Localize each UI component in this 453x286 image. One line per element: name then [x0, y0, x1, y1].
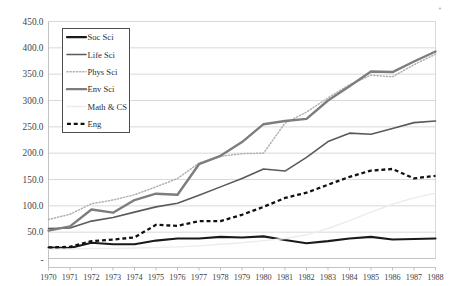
legend-label-phys-sci: Phys Sci: [88, 67, 118, 77]
x-tick-label-1982: 1982: [298, 273, 314, 282]
legend-box: [63, 29, 130, 133]
y-tick-label-400: 400.0: [23, 43, 44, 53]
legend-label-math-cs: Math & CS: [88, 102, 128, 112]
x-tick-label-1981: 1981: [277, 273, 293, 282]
x-tick-label-1973: 1973: [105, 273, 121, 282]
y-axis-tick-labels: -50.0100.0150.0200.0250.0300.0350.0400.0…: [23, 17, 44, 265]
legend-label-life-sci: Life Sci: [88, 50, 116, 60]
line-chart: -50.0100.0150.0200.0250.0300.0350.0400.0…: [0, 0, 453, 286]
legend-label-soc-sci: Soc Sci: [88, 32, 115, 42]
x-tick-label-1987: 1987: [406, 273, 422, 282]
x-tick-label-1985: 1985: [363, 273, 379, 282]
x-tick-label-1979: 1979: [234, 273, 250, 282]
x-tick-label-1976: 1976: [169, 273, 185, 282]
y-tick-label-350: 350.0: [23, 69, 44, 79]
legend-label-eng: Eng: [88, 119, 103, 129]
legend-label-env-sci: Env Sci: [88, 84, 116, 94]
y-tick-label-450: 450.0: [23, 17, 44, 27]
series-line-eng: [49, 169, 436, 247]
y-tick-label-150: 150.0: [23, 175, 44, 185]
x-tick-label-1978: 1978: [212, 273, 228, 282]
x-axis-tick-labels: 1970197119721973197419751976197719781979…: [40, 273, 443, 282]
x-tick-label-1970: 1970: [40, 273, 56, 282]
y-tick-label-0: -: [40, 255, 43, 265]
y-tick-label-200: 200.0: [23, 148, 44, 158]
chart-legend: Soc SciLife SciPhys SciEnv SciMath & CSE…: [63, 29, 130, 133]
x-tick-label-1988: 1988: [427, 273, 443, 282]
y-tick-label-250: 250.0: [23, 122, 44, 132]
y-tick-label-300: 300.0: [23, 96, 44, 106]
chart-container: -50.0100.0150.0200.0250.0300.0350.0400.0…: [0, 0, 453, 286]
y-tick-label-50: 50.0: [27, 227, 44, 237]
x-tick-label-1975: 1975: [148, 273, 164, 282]
x-tick-label-1980: 1980: [255, 273, 271, 282]
x-tick-label-1971: 1971: [62, 273, 78, 282]
y-tick-label-100: 100.0: [23, 201, 44, 211]
x-tick-label-1983: 1983: [320, 273, 336, 282]
x-tick-label-1986: 1986: [384, 273, 400, 282]
x-tick-label-1974: 1974: [126, 273, 142, 282]
x-tick-label-1977: 1977: [191, 273, 207, 282]
x-tick-label-1972: 1972: [83, 273, 99, 282]
stray-dot-mark: [439, 7, 441, 9]
x-tick-label-1984: 1984: [341, 273, 357, 282]
